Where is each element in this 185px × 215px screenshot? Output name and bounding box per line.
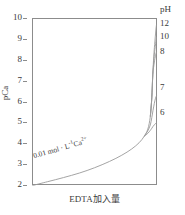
y-tick-label: 10 [13,12,22,23]
y-tick-label: 6 [18,96,23,107]
y-tick-label: 8 [18,54,23,65]
ph-label-6: 6 [160,107,165,118]
y-axis-title: pCa [0,75,10,111]
annotation-sup-charge: 2+ [80,135,87,142]
y-tick-mark [23,185,27,186]
y-tick-mark [23,18,27,19]
ph-label-7: 7 [160,82,165,93]
ph-label-10: 10 [160,31,169,42]
ph-label-8: 8 [160,46,165,57]
y-tick-mark [23,60,27,61]
y-tick-mark [23,81,27,82]
y-tick-mark [23,122,27,123]
ph-axis: pH 12 10 8 7 6 [158,0,185,215]
y-tick-mark [23,102,27,103]
y-tick-mark [23,39,27,40]
ph-axis-title: pH [160,4,171,14]
y-tick-label: 9 [18,33,23,44]
y-tick-label: 7 [18,75,23,86]
plot-area-frame [32,18,157,185]
y-tick-label: 5 [18,116,23,127]
chart-screenshot: 10 9 8 7 6 5 4 3 [0,0,185,215]
ph-label-12: 12 [160,18,169,29]
y-tick-label: 2 [18,179,23,190]
y-tick-label: 4 [18,137,23,148]
x-axis-title: EDTA加入量 [32,192,157,205]
y-tick-label: 3 [18,158,23,169]
y-tick-mark [23,164,27,165]
y-tick-mark [23,143,27,144]
